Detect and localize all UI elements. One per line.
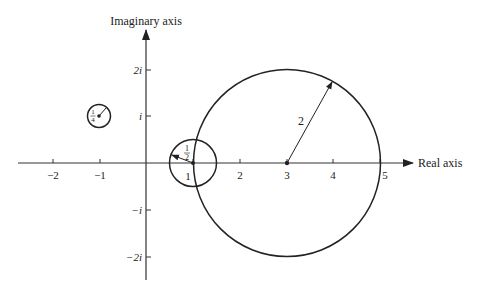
- real-tick-label: −1: [94, 169, 106, 181]
- real-tick-label: 1: [185, 170, 191, 182]
- medium-circle-radius-label: 1 2: [184, 144, 190, 162]
- complex-plane-diagram: −2 −1 1 2 3 4 5 2i i −i −2i Imaginary ax…: [0, 0, 477, 294]
- real-axis-label: Real axis: [418, 156, 463, 170]
- small-circle-radius-label: 1 4: [91, 108, 96, 124]
- svg-text:4: 4: [91, 116, 95, 124]
- svg-text:2: 2: [185, 153, 189, 162]
- imag-tick-label: 2i: [133, 64, 142, 76]
- large-circle-radius-arrow: [287, 82, 332, 163]
- svg-text:1: 1: [185, 144, 189, 153]
- large-circle-radius-label: 2: [298, 114, 304, 128]
- real-tick-label: −2: [47, 169, 59, 181]
- svg-text:1: 1: [91, 108, 95, 116]
- imag-tick-label: i: [139, 110, 142, 122]
- medium-circle-radius-arrow: [172, 155, 193, 163]
- imag-tick-label: −i: [132, 204, 142, 216]
- imaginary-axis-label: Imaginary axis: [110, 14, 182, 28]
- real-tick-label: 5: [382, 169, 388, 181]
- imag-tick-label: −2i: [126, 251, 142, 263]
- real-tick-label: 2: [237, 169, 243, 181]
- real-tick-label: 3: [284, 169, 290, 181]
- small-circle-radius-arrow: [99, 108, 106, 116]
- real-tick-label: 4: [330, 169, 336, 181]
